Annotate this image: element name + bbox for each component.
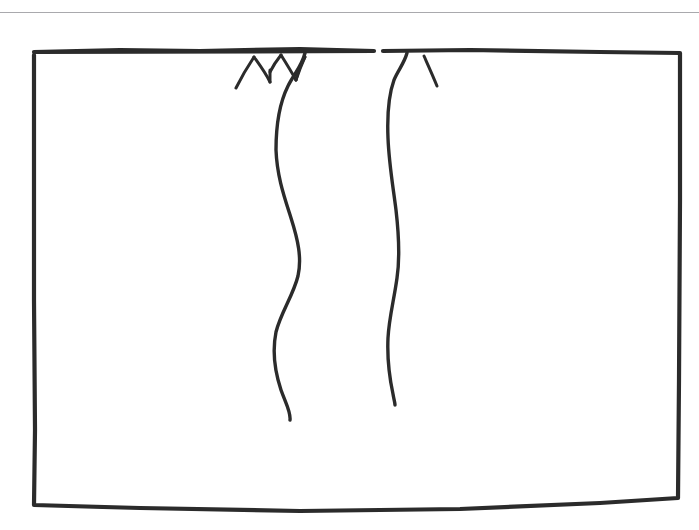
branch-fork-left-outer [236, 57, 254, 88]
branch-fork-far-right [424, 56, 437, 86]
sketch-frame [34, 49, 680, 511]
branch-fork-left-inner [254, 57, 270, 82]
right-hanging-strand [388, 53, 407, 405]
branch-fork-mid-left [270, 55, 281, 72]
sketch-page: Hand-drawn rectangular frame with two wa… [0, 0, 699, 530]
left-hanging-strand [274, 53, 305, 420]
sketch-drawing [0, 0, 699, 530]
branch-fork-mid-descender [281, 55, 296, 80]
